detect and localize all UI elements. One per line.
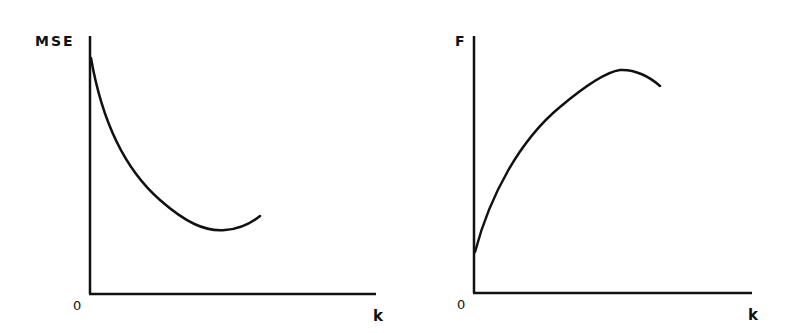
mse-curve — [91, 58, 260, 230]
mse-origin-label: 0 — [73, 298, 81, 313]
f-chart: F 0 k — [455, 33, 759, 324]
figure: MSE 0 k F 0 k — [0, 0, 793, 333]
mse-x-label: k — [373, 307, 384, 325]
f-x-label: k — [748, 306, 759, 324]
f-origin-label: 0 — [457, 297, 465, 312]
f-y-label: F — [455, 33, 465, 49]
mse-y-label: MSE — [35, 33, 75, 49]
mse-chart: MSE 0 k — [35, 33, 384, 325]
f-curve — [475, 70, 660, 252]
